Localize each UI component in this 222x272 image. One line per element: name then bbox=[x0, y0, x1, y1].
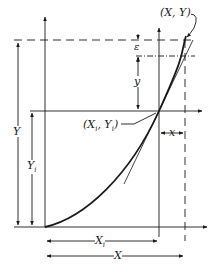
tangent-line bbox=[124, 40, 193, 184]
diagram-canvas bbox=[0, 0, 222, 272]
label-Xi-main: X bbox=[95, 234, 103, 247]
label-point-XY: (X, Y) bbox=[160, 7, 191, 18]
label-Yi: Yi bbox=[27, 160, 37, 174]
label-big-Y: Y bbox=[13, 126, 20, 137]
label-epsilon: ε bbox=[134, 42, 139, 52]
label-Xi-sub: i bbox=[103, 241, 105, 249]
label-big-X: X bbox=[114, 250, 122, 261]
label-Yi-sub: i bbox=[34, 166, 36, 174]
label-small-y: y bbox=[134, 76, 140, 87]
label-XiYi-open: (X bbox=[83, 118, 95, 131]
label-small-x: x bbox=[169, 127, 175, 138]
label-XiYi-close: ) bbox=[114, 118, 118, 131]
leader-XiYi bbox=[121, 113, 156, 124]
label-Xi: Xi bbox=[95, 235, 105, 249]
label-point-XiYi: (Xi, Yi) bbox=[83, 119, 118, 133]
label-XY-text: (X, Y) bbox=[160, 6, 191, 19]
label-XiYi-mid: , Y bbox=[97, 118, 111, 131]
